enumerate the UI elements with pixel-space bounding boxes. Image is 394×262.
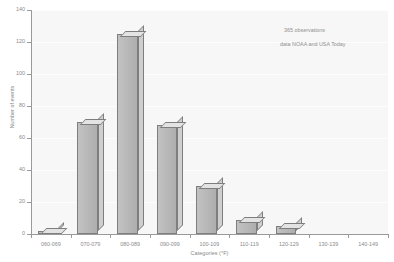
bar-side-face [138, 26, 144, 232]
x-tick-label: 070-079 [71, 240, 111, 248]
x-tick-mark [309, 234, 310, 238]
x-tick-mark [229, 234, 230, 238]
bar [236, 214, 257, 234]
y-tick-label: 0 [22, 229, 25, 238]
bar [38, 225, 59, 234]
x-tick-mark [71, 234, 72, 238]
x-tick-label: 140-149 [348, 240, 388, 248]
x-tick-mark [269, 234, 270, 238]
bar [196, 181, 217, 235]
y-tick-label: 80 [19, 101, 25, 110]
y-tick-mark [27, 106, 31, 107]
y-tick-label: 60 [19, 133, 25, 142]
y-axis-tick: 120 [0, 42, 31, 43]
y-tick-label: 40 [19, 165, 25, 174]
y-tick-mark [27, 42, 31, 43]
annotation-source: data NOAA and USA Today [280, 41, 346, 47]
x-tick-label: 060-069 [31, 240, 71, 248]
bar-side-face [98, 114, 104, 232]
bar [77, 117, 98, 235]
x-tick-mark [348, 234, 349, 238]
bar-front-face [196, 186, 217, 234]
y-tick-label: 100 [16, 69, 25, 78]
y-axis-tick: 100 [0, 74, 31, 75]
y-tick-mark [27, 170, 31, 171]
y-tick-mark [27, 10, 31, 11]
y-tick-mark [27, 138, 31, 139]
x-axis-title: Categories (°F) [31, 250, 388, 256]
bar-front-face [117, 34, 138, 234]
gridline [31, 106, 388, 107]
bar [117, 29, 138, 235]
annotation-observations: 365 observations [284, 27, 325, 33]
y-axis-tick: 80 [0, 106, 31, 107]
x-axis-line [31, 234, 388, 235]
bar-front-face [157, 125, 178, 234]
x-tick-mark [150, 234, 151, 238]
y-tick-label: 20 [19, 197, 25, 206]
x-tick-label: 080-089 [110, 240, 150, 248]
bar-front-face [77, 122, 98, 234]
bar-chart-figure: 020406080100120140 060-069070-079080-089… [0, 0, 394, 262]
y-tick-mark [27, 202, 31, 203]
x-tick-mark [110, 234, 111, 238]
x-tick-label: 090-099 [150, 240, 190, 248]
y-tick-label: 140 [16, 5, 25, 14]
y-axis-tick: 60 [0, 138, 31, 139]
x-tick-mark [31, 234, 32, 238]
x-tick-mark [388, 234, 389, 238]
y-tick-label: 120 [16, 37, 25, 46]
bar-top-face [279, 223, 305, 229]
y-axis-tick: 40 [0, 170, 31, 171]
x-tick-label: 120-129 [269, 240, 309, 248]
y-axis-tick: 20 [0, 202, 31, 203]
y-axis-title: Number of events [9, 67, 15, 147]
x-tick-label: 100-109 [190, 240, 230, 248]
x-tick-mark [190, 234, 191, 238]
y-tick-mark [27, 74, 31, 75]
y-axis-tick: 0 [0, 234, 31, 235]
bar [276, 221, 297, 235]
gridline [31, 74, 388, 75]
x-tick-label: 110-119 [229, 240, 269, 248]
gridline [31, 10, 388, 11]
bar-side-face [177, 117, 183, 231]
x-tick-label: 130-139 [309, 240, 349, 248]
y-axis-line [31, 10, 32, 234]
bar [157, 120, 178, 234]
y-axis-tick: 140 [0, 10, 31, 11]
bar-top-face [41, 228, 67, 234]
